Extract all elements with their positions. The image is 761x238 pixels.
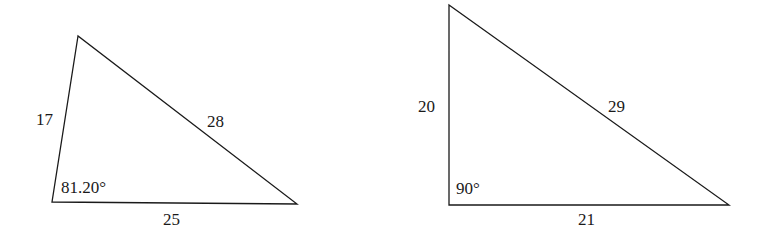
right-triangle-angle: 90° <box>456 180 480 197</box>
diagram-canvas: 17 28 81.20° 25 20 29 90° 21 <box>0 0 761 238</box>
left-triangle-side-17: 17 <box>36 111 53 128</box>
right-triangle-side-29: 29 <box>608 98 625 115</box>
right-triangle-base-21: 21 <box>578 211 595 228</box>
left-triangle-base-25: 25 <box>163 211 180 228</box>
right-triangle-side-20: 20 <box>418 98 435 115</box>
left-triangle-angle: 81.20° <box>61 179 106 196</box>
triangles-drawing <box>0 0 761 238</box>
right-triangle <box>449 5 729 205</box>
left-triangle-side-28: 28 <box>207 113 224 130</box>
